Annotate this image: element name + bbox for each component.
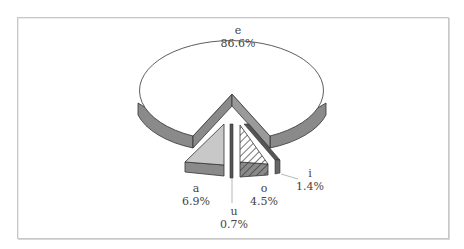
label-e: e 86.6%	[208, 24, 268, 50]
label-e-name: e	[208, 24, 268, 37]
label-a-name: a	[166, 182, 226, 195]
slice-u	[230, 124, 233, 178]
label-o-pct: 4.5%	[234, 195, 294, 208]
label-u: u 0.7%	[204, 205, 264, 231]
label-u-pct: 0.7%	[204, 218, 264, 231]
label-i-name: i	[280, 167, 340, 180]
label-i-pct: 1.4%	[280, 180, 340, 193]
label-i: i 1.4%	[280, 167, 340, 193]
label-e-pct: 86.6%	[208, 37, 268, 50]
